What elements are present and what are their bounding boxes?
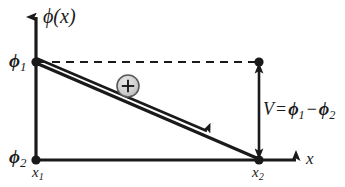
phi2-label: ϕ2 <box>9 147 26 166</box>
node-dot-phi1 <box>31 57 40 66</box>
potential-diagram-figure: ϕ(x) ϕ1 ϕ2 x1 x2 x V=ϕ1−ϕ2 <box>0 0 345 187</box>
x2-subscript: 2 <box>259 171 264 182</box>
x1-label: x1 <box>32 165 44 180</box>
equation-term2-symbol: ϕ <box>319 99 329 119</box>
x-axis-label: x <box>306 150 314 167</box>
positive-charge <box>117 75 139 97</box>
phi2-subscript: 2 <box>20 155 26 170</box>
x1-subscript: 1 <box>39 171 44 182</box>
equation-term2-subscript: 2 <box>329 108 335 122</box>
x2-symbol: x <box>252 164 259 180</box>
equation-minus: − <box>305 99 319 119</box>
equation-term1-symbol: ϕ <box>288 99 298 119</box>
phi1-symbol: ϕ <box>9 50 20 71</box>
diagram-canvas <box>0 0 345 187</box>
equation-term1-subscript: 1 <box>299 108 305 122</box>
y-axis-label: ϕ(x) <box>43 6 76 26</box>
node-dot-top-right <box>254 57 263 66</box>
potential-profile-line <box>36 63 259 159</box>
x1-symbol: x <box>32 164 39 180</box>
equation-equals: = <box>274 99 288 119</box>
x2-label: x2 <box>252 165 264 180</box>
voltage-equation: V=ϕ1−ϕ2 <box>263 100 335 118</box>
phi1-label: ϕ1 <box>9 51 26 70</box>
phi2-symbol: ϕ <box>9 146 20 167</box>
phi1-subscript: 1 <box>20 59 26 74</box>
equation-lhs: V <box>263 99 274 119</box>
